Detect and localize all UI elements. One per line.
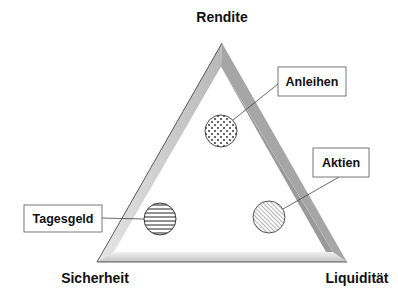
vertex-label-sicherheit: Sicherheit xyxy=(61,270,129,286)
dots-pattern-circle-icon xyxy=(205,115,237,147)
stripes-pattern-circle-icon xyxy=(144,203,176,235)
label-aktien: Aktien xyxy=(322,156,360,170)
vertex-label-rendite: Rendite xyxy=(196,9,248,25)
label-tagesgeld: Tagesgeld xyxy=(33,212,94,226)
label-anleihen: Anleihen xyxy=(286,75,339,89)
magic-triangle-diagram: Rendite Sicherheit Liquidität Anleihen A… xyxy=(0,0,398,302)
item-tagesgeld: Tagesgeld xyxy=(24,203,176,235)
hatch-pattern-circle-icon xyxy=(253,201,285,233)
triangle-bottom-face xyxy=(97,252,347,262)
vertex-label-liquiditaet: Liquidität xyxy=(326,270,389,286)
